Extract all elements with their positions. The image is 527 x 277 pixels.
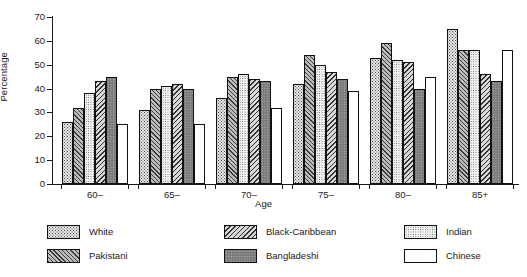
bar-pakistani xyxy=(381,43,392,184)
x-tick-mark xyxy=(292,185,293,189)
bar-bangladeshi xyxy=(260,81,271,184)
y-tick-mark xyxy=(47,17,52,18)
legend-swatch-icon xyxy=(47,249,80,263)
y-tick-label: 30 xyxy=(34,105,45,118)
x-tick-mark xyxy=(138,185,139,189)
bar-black-caribbean xyxy=(480,74,491,184)
bar-pakistani xyxy=(227,77,238,184)
x-tick-mark xyxy=(446,185,447,189)
y-tick-label: 0 xyxy=(40,177,45,190)
y-tick-30: 30 xyxy=(52,112,57,113)
y-tick-label: 20 xyxy=(34,129,45,142)
x-tick-mark xyxy=(369,185,370,189)
bar-bangladeshi xyxy=(414,89,425,184)
bar-white xyxy=(293,84,304,184)
y-tick-mark xyxy=(47,112,52,113)
x-tick-mark xyxy=(513,185,514,189)
x-axis-line xyxy=(52,184,519,185)
bar-chinese xyxy=(425,77,436,184)
y-tick-60: 60 xyxy=(52,41,57,42)
x-tick-mark xyxy=(282,185,283,189)
legend-label: White xyxy=(89,226,113,238)
x-tick-mark xyxy=(128,185,129,189)
x-tick-mark xyxy=(215,185,216,189)
y-axis-title: Percentage xyxy=(0,52,11,102)
legend-swatch-icon xyxy=(47,225,80,239)
x-axis-title: Age xyxy=(0,198,527,209)
legend-label: Black-Caribbean xyxy=(266,226,336,238)
bar-bangladeshi xyxy=(106,77,117,184)
bar-white xyxy=(139,110,150,184)
bar-indian xyxy=(392,60,403,184)
y-tick-label: 40 xyxy=(34,82,45,95)
legend-item-bangladeshi[interactable]: Bangladeshi xyxy=(224,248,318,263)
y-tick-0: 0 xyxy=(52,184,57,185)
bar-black-caribbean xyxy=(326,72,337,184)
bar-black-caribbean xyxy=(403,62,414,184)
x-tick-mark xyxy=(359,185,360,189)
y-tick-mark xyxy=(47,136,52,137)
bar-black-caribbean xyxy=(172,84,183,184)
bar-indian xyxy=(238,74,249,184)
x-tick-mark xyxy=(205,185,206,189)
y-tick-mark xyxy=(47,89,52,90)
legend-label: Pakistani xyxy=(89,250,128,262)
legend-swatch-icon xyxy=(224,225,257,239)
bar-group-70 xyxy=(216,17,282,184)
bar-bangladeshi xyxy=(183,89,194,184)
legend-swatch-icon xyxy=(404,225,437,239)
y-tick-mark xyxy=(47,65,52,66)
bar-white xyxy=(447,29,458,184)
bar-chinese xyxy=(194,124,205,184)
y-tick-70: 70 xyxy=(52,17,57,18)
y-tick-label: 70 xyxy=(34,10,45,23)
bar-indian xyxy=(161,86,172,184)
bar-white xyxy=(216,98,227,184)
bar-chinese xyxy=(117,124,128,184)
bar-black-caribbean xyxy=(249,79,260,184)
legend-swatch-icon xyxy=(404,249,437,263)
bar-group-80 xyxy=(370,17,436,184)
bar-pakistani xyxy=(150,89,161,184)
y-tick-label: 60 xyxy=(34,34,45,47)
y-tick-mark xyxy=(47,160,52,161)
y-tick-mark xyxy=(47,184,52,185)
y-tick-50: 50 xyxy=(52,65,57,66)
legend-swatch-icon xyxy=(224,249,257,263)
legend-item-black-caribbean[interactable]: Black-Caribbean xyxy=(224,224,336,239)
bar-group-85+ xyxy=(447,17,513,184)
y-tick-mark xyxy=(47,41,52,42)
plot-area: 010203040506070 xyxy=(52,17,518,184)
bar-white xyxy=(370,58,381,184)
bar-pakistani xyxy=(73,108,84,184)
bar-white xyxy=(62,122,73,184)
bar-chinese xyxy=(271,108,282,184)
y-tick-40: 40 xyxy=(52,89,57,90)
bar-indian xyxy=(315,65,326,184)
bar-group-65 xyxy=(139,17,205,184)
bar-group-75 xyxy=(293,17,359,184)
bar-indian xyxy=(84,93,95,184)
chart-legend: WhitePakistaniBlack-CaribbeanBangladeshi… xyxy=(0,222,527,270)
bar-indian xyxy=(469,50,480,184)
bar-pakistani xyxy=(304,55,315,184)
bar-chinese xyxy=(348,91,359,184)
x-tick-mark xyxy=(61,185,62,189)
bar-group-60 xyxy=(62,17,128,184)
y-tick-20: 20 xyxy=(52,136,57,137)
x-tick-mark xyxy=(436,185,437,189)
bar-black-caribbean xyxy=(95,81,106,184)
y-tick-label: 10 xyxy=(34,153,45,166)
legend-item-indian[interactable]: Indian xyxy=(404,224,472,239)
legend-label: Chinese xyxy=(446,250,481,262)
y-tick-10: 10 xyxy=(52,160,57,161)
bar-chinese xyxy=(502,50,513,184)
legend-item-chinese[interactable]: Chinese xyxy=(404,248,481,263)
bar-pakistani xyxy=(458,50,469,184)
legend-item-pakistani[interactable]: Pakistani xyxy=(47,248,128,263)
bar-chart-figure: Percentage 010203040506070 60–65–70–75–8… xyxy=(0,0,527,277)
legend-label: Indian xyxy=(446,226,472,238)
bar-bangladeshi xyxy=(491,81,502,184)
legend-item-white[interactable]: White xyxy=(47,224,113,239)
bar-bangladeshi xyxy=(337,79,348,184)
